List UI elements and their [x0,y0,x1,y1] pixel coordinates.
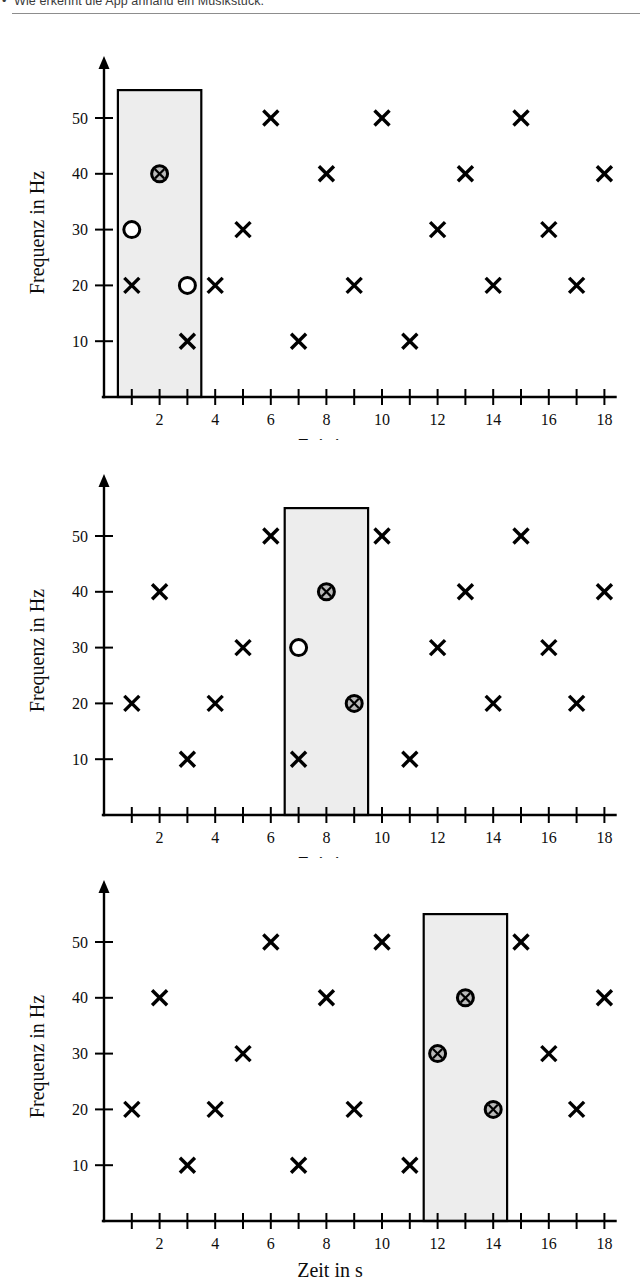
y-axis-arrowhead [99,880,110,893]
chart-panel-3: 102030405024681012141618Frequenz in HzZe… [0,846,644,1284]
x-tick-label: 12 [430,1235,446,1252]
x-marker [375,111,390,126]
x-marker [402,752,417,767]
circle-cross-marker [318,584,334,600]
circle-marker [124,222,140,238]
circle-cross-marker [430,1046,446,1062]
chart-panel-2: 102030405024681012141618Frequenz in HzZe… [0,440,644,858]
y-tick-group: 1020304050 [72,528,113,768]
page-header: • Wie erkennt die App anhand ein Musikst… [0,0,644,22]
y-tick-label: 10 [72,333,88,350]
x-marker [208,278,223,293]
x-marker [208,696,223,711]
circle-marker-ring [179,277,195,293]
x-tick-label: 18 [596,411,612,428]
x-tick-label: 14 [485,829,501,846]
x-marker [124,1102,139,1117]
circle-marker-ring [124,222,140,238]
x-marker [236,1046,251,1061]
circle-marker [291,640,307,656]
y-tick-label: 30 [72,221,88,238]
x-marker [180,1158,195,1173]
y-tick-label: 50 [72,528,88,545]
x-marker [180,752,195,767]
x-marker [375,935,390,950]
x-marker [486,278,501,293]
x-tick-label: 10 [374,1235,390,1252]
x-marker [458,166,473,181]
scatter-chart-3: 102030405024681012141618Frequenz in HzZe… [0,846,644,1284]
x-marker [291,334,306,349]
y-tick-label: 50 [72,110,88,127]
scatter-chart-2: 102030405024681012141618Frequenz in HzZe… [0,440,644,858]
x-tick-group: 24681012141618 [132,389,613,428]
y-tick-label: 40 [72,165,88,182]
x-tick-label: 16 [541,1235,557,1252]
highlight-band [118,90,201,397]
x-marker [375,529,390,544]
y-tick-label: 40 [72,583,88,600]
x-tick-label: 14 [485,411,501,428]
circle-cross-marker [457,990,473,1006]
x-marker [402,1158,417,1173]
y-tick-label: 30 [72,639,88,656]
x-marker [236,222,251,237]
x-tick-label: 18 [596,1235,612,1252]
y-tick-label: 20 [72,695,88,712]
x-marker [347,278,362,293]
x-marker [236,640,251,655]
y-axis-title: Frequenz in Hz [26,995,49,1118]
y-tick-label: 40 [72,989,88,1006]
y-axis [99,880,110,1221]
x-tick-group: 24681012141618 [132,807,613,846]
x-tick-label: 2 [156,411,164,428]
circle-marker-ring [291,640,307,656]
x-tick-label: 16 [541,411,557,428]
y-tick-label: 20 [72,277,88,294]
highlight-band [424,914,507,1221]
x-tick-label: 2 [156,1235,164,1252]
x-marker [208,1102,223,1117]
y-axis-title: Frequenz in Hz [26,171,49,294]
y-axis-title: Frequenz in Hz [26,589,49,712]
header-bullet-icon: • [2,0,6,8]
x-tick-label: 8 [322,1235,330,1252]
header-divider [12,13,640,14]
y-tick-group: 1020304050 [72,934,113,1174]
x-tick-label: 6 [267,411,275,428]
circle-cross-marker [485,1101,501,1117]
x-marker [569,278,584,293]
x-marker [486,696,501,711]
x-tick-group: 24681012141618 [132,1213,613,1252]
chart-panel-1: 102030405024681012141618Frequenz in HzZe… [0,22,644,440]
y-tick-label: 10 [72,751,88,768]
highlight-band [285,508,368,815]
x-tick-label: 4 [211,1235,219,1252]
x-axis-title: Zeit in s [297,1259,363,1281]
x-marker [569,1102,584,1117]
x-marker [597,166,612,181]
x-tick-label: 10 [374,829,390,846]
circle-marker [179,277,195,293]
x-marker [514,935,529,950]
x-marker [597,584,612,599]
x-marker [263,529,278,544]
x-marker [569,696,584,711]
x-marker [541,1046,556,1061]
circle-cross-marker [346,695,362,711]
x-tick-label: 8 [322,829,330,846]
x-marker [541,222,556,237]
x-marker [152,990,167,1005]
x-marker [263,111,278,126]
y-tick-group: 1020304050 [72,110,113,350]
x-tick-label: 2 [156,829,164,846]
y-axis-arrowhead [99,474,110,487]
x-tick-label: 12 [430,829,446,846]
y-tick-label: 10 [72,1157,88,1174]
circle-cross-marker [152,166,168,182]
x-marker [402,334,417,349]
x-tick-label: 6 [267,1235,275,1252]
x-marker [291,1158,306,1173]
x-marker [430,222,445,237]
x-tick-label: 6 [267,829,275,846]
